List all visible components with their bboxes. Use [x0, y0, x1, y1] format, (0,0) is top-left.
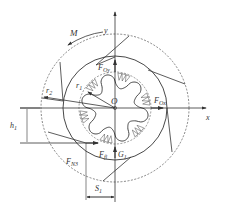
s1-label: S1: [95, 184, 102, 194]
origin-label: O: [111, 96, 118, 106]
fn3-label: FN3: [65, 157, 78, 167]
h1-label: h1: [10, 121, 17, 131]
gear-tooth-triangle: [89, 82, 95, 88]
r2-label: r2: [46, 86, 52, 96]
gear-tooth-triangle: [137, 125, 144, 131]
r1-label: r1: [76, 81, 82, 91]
gear-tooth-triangle: [100, 134, 105, 141]
gear-tooth-triangle: [108, 136, 112, 143]
r2-radius-line: [44, 97, 115, 108]
fox-label: FOx: [153, 96, 166, 106]
ffl-label: Ffl: [98, 150, 108, 160]
gear-tooth-triangle: [82, 118, 89, 123]
gear-tooth-triangle: [135, 128, 141, 134]
gear-tooth-triangle: [118, 73, 122, 80]
moment-label: M: [69, 28, 78, 38]
gear-tooth-triangle: [132, 130, 138, 137]
gear-tooth-triangle: [125, 75, 130, 82]
gear-tooth-triangle: [92, 79, 98, 86]
y-axis-label: y: [103, 26, 108, 35]
g1-label: G1: [118, 150, 127, 160]
gear-tooth-triangle: [86, 85, 93, 91]
foy-label: FOy: [97, 63, 110, 73]
gear-tooth-triangle: [141, 93, 148, 98]
mechanism-diagram: M y x O r2 r1 FOy FOx h1 FN3 Ffl G1 S1: [0, 0, 225, 211]
gear-tooth-triangle: [80, 111, 87, 115]
gear-tooth-triangle: [143, 101, 150, 105]
x-axis-label: x: [205, 113, 210, 122]
